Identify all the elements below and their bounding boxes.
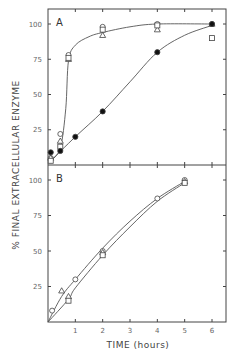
- square-open-marker: [66, 55, 71, 60]
- square-open-marker: [100, 253, 105, 258]
- square-open-marker: [66, 298, 71, 303]
- circle-filled-marker: [58, 148, 63, 153]
- y-tick-label: 100: [29, 21, 42, 29]
- y-tick-label: 75: [33, 56, 42, 64]
- y-tick-label: 75: [33, 212, 42, 220]
- square-open-marker: [48, 158, 53, 163]
- x-tick-label: 4: [155, 327, 160, 335]
- square-open-marker: [182, 180, 187, 185]
- circle-filled-marker: [73, 134, 78, 139]
- y-axis-label: % FINAL EXTRACELLULAR ENZYME: [11, 80, 21, 249]
- panel-a-points: [48, 21, 215, 163]
- square-open-marker: [100, 27, 105, 32]
- circle-open-marker: [73, 277, 78, 282]
- square-open-marker: [155, 23, 160, 28]
- panel-b-points: [50, 178, 188, 314]
- y-tick-label: 25: [33, 126, 42, 134]
- circle-filled-marker: [209, 21, 214, 26]
- curve-a-open: [51, 24, 212, 161]
- square-open-marker: [210, 36, 215, 41]
- x-tick-label: 1: [73, 327, 77, 335]
- circle-filled-marker: [48, 150, 53, 155]
- x-axis-label: TIME (hours): [106, 340, 170, 350]
- y-tick-label: 50: [33, 248, 42, 256]
- panel-b-label: B: [56, 173, 63, 184]
- y-tick-label: 100: [29, 177, 42, 185]
- x-tick-label: 2: [100, 327, 104, 335]
- figure: 255075100A255075100B123456TIME (hours)% …: [0, 0, 240, 357]
- triangle-open-marker: [59, 288, 65, 293]
- x-tick-label: 6: [210, 327, 215, 335]
- circle-open-marker: [58, 131, 63, 136]
- x-tick-label: 5: [182, 327, 186, 335]
- panel-a-label: A: [56, 17, 63, 28]
- x-tick-label: 3: [128, 327, 132, 335]
- circle-open-marker: [155, 196, 160, 201]
- panel-b: 255075100B: [29, 165, 226, 322]
- y-tick-label: 25: [33, 283, 42, 291]
- circle-filled-marker: [100, 109, 105, 114]
- circle-open-marker: [50, 308, 55, 313]
- y-tick-label: 50: [33, 91, 42, 99]
- circle-filled-marker: [155, 50, 160, 55]
